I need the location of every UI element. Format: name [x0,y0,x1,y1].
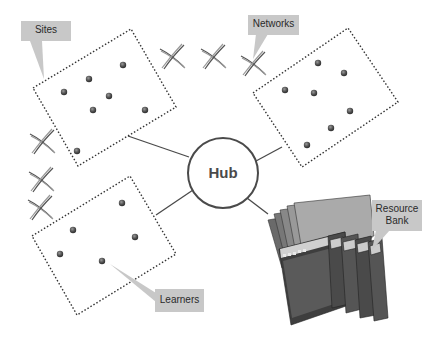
network-links-top [160,44,266,76]
hub-network-diagram: Sites Networks Resource Bank Learners Hu… [0,0,441,338]
learner-nodes [61,62,148,154]
connector-resource-bank [247,198,268,214]
connector-bottom-left [156,190,193,215]
network-cable-icon [201,44,226,69]
callout-resource-bank-label-line2: Bank [372,215,422,227]
learner-nodes [282,60,353,148]
connector-top-left [128,136,189,157]
learner-nodes [57,200,138,264]
resource-bank-windows [268,195,388,325]
network-links-left [28,129,55,220]
callout-networks-label: Networks [248,18,299,30]
network-cable-icon [160,44,185,69]
network-cable-icon [29,167,54,192]
dotted-boundary [253,28,398,167]
network-cable-icon [241,51,266,76]
callout-learners-label: Learners [155,294,204,306]
hub-label: Hub [188,164,258,181]
network-cable-icon [30,129,55,154]
network-cable-icon [28,195,53,220]
connector-top-right [256,147,282,161]
callout-resource-bank-label-line1: Resource [372,203,422,215]
site-top-right [253,28,398,167]
callout-sites-label: Sites [21,24,71,36]
